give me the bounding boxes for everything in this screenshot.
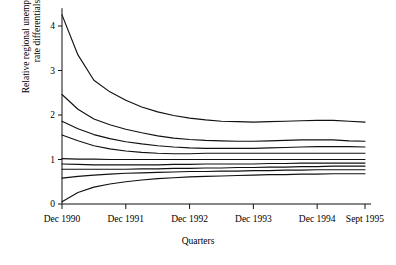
x-axis-title-text: Quarters (182, 236, 215, 246)
x-axis-title: Quarters (0, 236, 396, 247)
series-line (62, 166, 365, 169)
y-tick-labels: 01234 (50, 21, 55, 209)
y-axis-title: Relative regional unemployment rate diff… (21, 0, 43, 101)
series-line (62, 159, 365, 160)
series-line (62, 95, 365, 142)
y-tick-label: 4 (50, 21, 55, 31)
x-axis-ticks (62, 204, 365, 209)
x-tick-label: Dec 1992 (171, 214, 208, 224)
series-lines (62, 15, 365, 202)
y-axis-ticks (58, 26, 62, 204)
x-tick-label: Dec 1990 (44, 214, 81, 224)
y-tick-label: 2 (50, 110, 55, 120)
chart-figure: 01234 Dec 1990Dec 1991Dec 1992Dec 1993De… (0, 0, 396, 265)
series-line (62, 121, 365, 148)
series-line (62, 174, 365, 202)
line-chart-canvas: 01234 Dec 1990Dec 1991Dec 1992Dec 1993De… (0, 0, 396, 265)
y-tick-label: 3 (50, 66, 55, 76)
x-tick-label: Sept 1995 (346, 214, 385, 224)
x-tick-label: Dec 1994 (299, 214, 336, 224)
x-tick-labels: Dec 1990Dec 1991Dec 1992Dec 1993Dec 1994… (44, 214, 385, 224)
series-line (62, 163, 365, 165)
series-line (62, 15, 365, 122)
x-tick-label: Dec 1991 (107, 214, 144, 224)
y-tick-label: 1 (50, 155, 55, 165)
x-tick-label: Dec 1993 (235, 214, 272, 224)
y-tick-label: 0 (50, 199, 55, 209)
y-axis-title-text: Relative regional unemployment rate diff… (21, 0, 42, 93)
